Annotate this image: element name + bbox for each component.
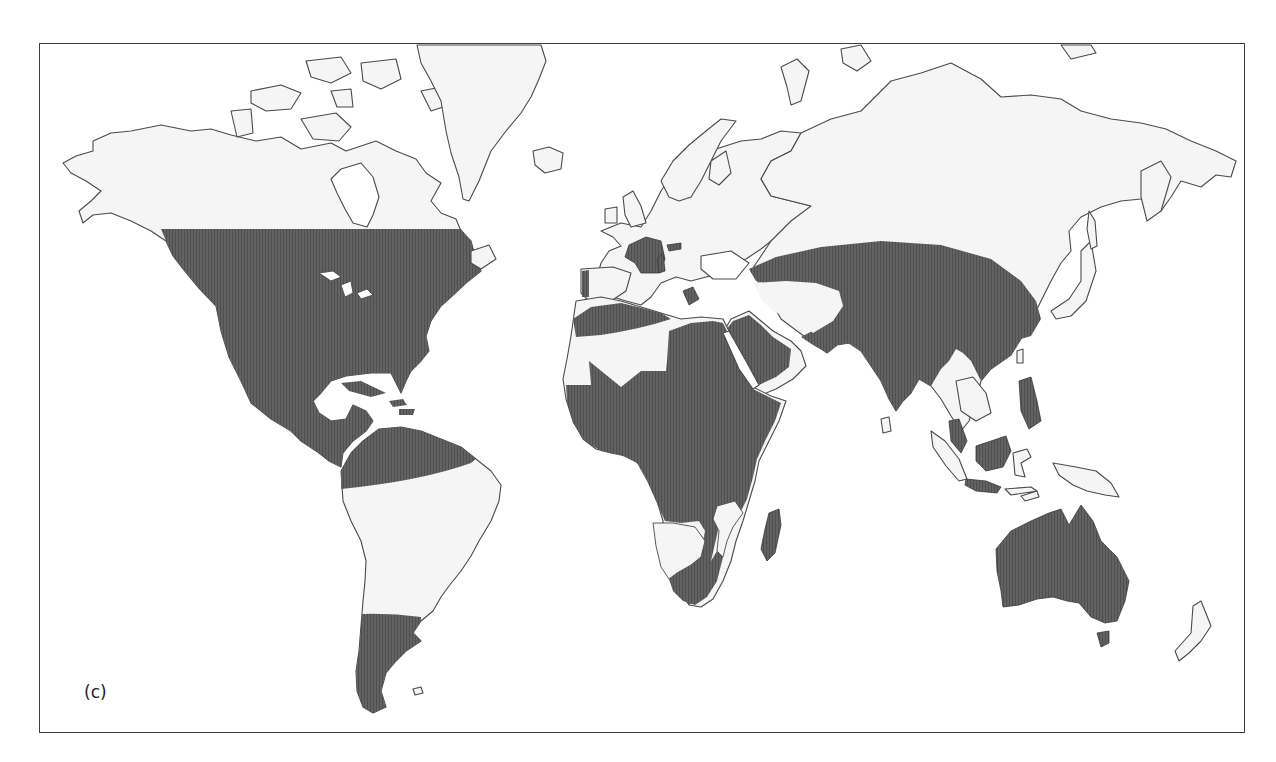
range-australia [996,505,1129,623]
range-philippines [1019,377,1041,429]
greenland [417,45,546,201]
falkland-islands [413,687,423,695]
world-map [39,43,1245,733]
range-tasmania [1097,631,1109,647]
range-madagascar [761,509,781,561]
kamchatka [1141,161,1171,221]
map-frame [39,43,1245,733]
range-portugal [582,270,589,297]
sulawesi [1013,449,1031,477]
range-greece [683,287,699,305]
novaya-zemlya [781,59,809,105]
range-borneo [976,436,1011,471]
oceania [931,431,1211,661]
asia [721,45,1236,453]
south-america [341,427,501,713]
lesser-sunda-islands [1005,487,1039,501]
severnaya-zemlya [841,45,1096,71]
newfoundland [471,245,496,269]
range-north-central-america [161,229,481,467]
north-america [63,57,496,467]
new-zealand [1175,601,1211,661]
british-isles [605,191,646,227]
range-java [965,479,1001,493]
iceland [533,147,563,173]
sri-lanka [881,417,891,433]
new-guinea [1053,463,1119,497]
panel-label: (c) [84,682,107,702]
taiwan [1017,349,1023,363]
